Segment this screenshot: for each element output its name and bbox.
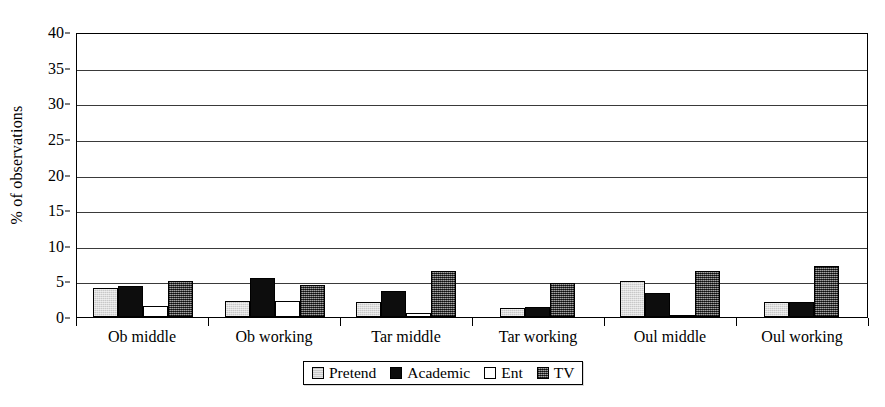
bar[interactable] <box>406 313 431 317</box>
bar[interactable] <box>789 302 814 317</box>
x-axis-tick-mark <box>340 318 341 326</box>
bar[interactable] <box>168 281 193 317</box>
y-axis-tick-label: 20 <box>48 167 64 185</box>
y-axis-tick-label: 10 <box>48 238 64 256</box>
legend-item-label: Ent <box>501 364 523 382</box>
bar[interactable] <box>118 286 143 317</box>
y-axis-tick-label: 5 <box>56 273 64 291</box>
y-axis-tick-mark <box>65 282 70 283</box>
legend-item-label: Pretend <box>329 364 376 382</box>
y-axis-tick-mark <box>65 139 70 140</box>
legend-item[interactable]: TV <box>537 364 575 382</box>
legend-swatch-icon <box>312 367 324 379</box>
bar[interactable] <box>620 281 645 317</box>
x-axis-category-labels: Ob middleOb workingTar middleTar working… <box>76 328 868 346</box>
y-axis-tick-label: 15 <box>48 202 64 220</box>
y-axis-tick-labels: 0510152025303540 <box>34 33 70 318</box>
x-axis-tick-mark <box>472 318 473 326</box>
bar[interactable] <box>550 283 575 317</box>
legend-item[interactable]: Ent <box>484 364 523 382</box>
bar[interactable] <box>500 308 525 317</box>
plot-area <box>76 33 868 318</box>
bar[interactable] <box>225 301 250 317</box>
y-axis-tick-mark <box>65 211 70 212</box>
bar[interactable] <box>300 285 325 317</box>
y-axis-tick-label: 40 <box>48 24 64 42</box>
y-axis-tick-mark <box>65 104 70 105</box>
bar[interactable] <box>250 278 275 317</box>
y-axis-tick-label: 35 <box>48 60 64 78</box>
legend-item-label: TV <box>554 364 575 382</box>
bar-group <box>77 34 209 317</box>
bar[interactable] <box>381 291 406 317</box>
legend-swatch-icon <box>390 367 402 379</box>
legend-swatch-icon <box>484 367 496 379</box>
bar[interactable] <box>814 266 839 317</box>
bar-group <box>340 34 472 317</box>
legend-item[interactable]: Academic <box>390 364 470 382</box>
bar[interactable] <box>525 307 550 317</box>
y-axis-tick-mark <box>65 33 70 34</box>
bar[interactable] <box>356 302 381 317</box>
bar[interactable] <box>645 293 670 317</box>
x-axis-category-label: Oul middle <box>604 328 736 346</box>
bar[interactable] <box>143 306 168 317</box>
bar[interactable] <box>764 302 789 317</box>
y-axis-tick-mark <box>65 246 70 247</box>
bar[interactable] <box>695 271 720 317</box>
x-axis-tick-mark <box>736 318 737 326</box>
x-axis-category-label: Ob middle <box>76 328 208 346</box>
x-axis-category-label: Tar working <box>472 328 604 346</box>
y-axis-tick-label: 25 <box>48 131 64 149</box>
bar-groups <box>77 34 867 317</box>
bar[interactable] <box>275 301 300 317</box>
y-axis-tick-label: 30 <box>48 95 64 113</box>
chart-legend: PretendAcademicEntTV <box>303 361 583 385</box>
bar-group <box>209 34 341 317</box>
y-axis-tick-mark <box>65 68 70 69</box>
x-axis-tick-mark <box>604 318 605 326</box>
x-axis-category-label: Ob working <box>208 328 340 346</box>
y-axis-title-text: % of observations <box>8 106 26 225</box>
bar-group <box>472 34 604 317</box>
x-axis-category-label: Oul working <box>736 328 868 346</box>
bar-group <box>604 34 736 317</box>
y-axis-tick-label: 0 <box>56 309 64 327</box>
bar[interactable] <box>431 271 456 317</box>
x-axis-ticks <box>76 318 868 327</box>
x-axis-category-label: Tar middle <box>340 328 472 346</box>
legend-item-label: Academic <box>407 364 470 382</box>
y-axis-tick-mark <box>65 318 70 319</box>
x-axis-tick-mark <box>76 318 77 326</box>
x-axis-tick-mark <box>208 318 209 326</box>
legend-item[interactable]: Pretend <box>312 364 376 382</box>
y-axis-tick-mark <box>65 175 70 176</box>
y-axis-title: % of observations <box>0 0 34 330</box>
x-axis-tick-mark <box>868 318 869 326</box>
bar[interactable] <box>93 288 118 317</box>
legend-swatch-icon <box>537 367 549 379</box>
bar[interactable] <box>670 315 695 317</box>
bar-chart: % of observations 0510152025303540 Ob mi… <box>0 0 885 407</box>
bar-group <box>735 34 867 317</box>
